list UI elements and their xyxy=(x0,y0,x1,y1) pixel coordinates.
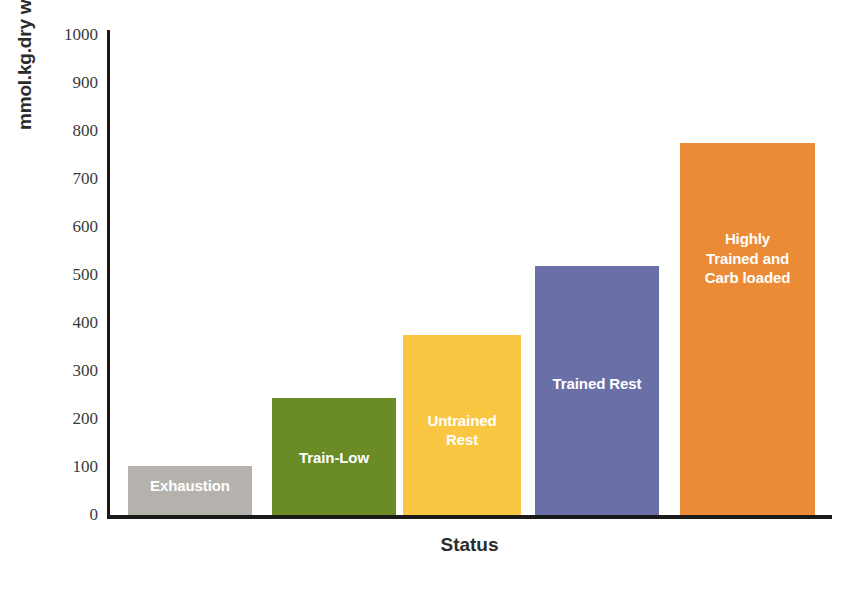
bar-label: Train-Low xyxy=(272,448,396,467)
bar-train-low[interactable]: Train-Low xyxy=(272,398,396,515)
x-axis-title: Status xyxy=(107,534,832,556)
bar-label: Trained Rest xyxy=(535,374,659,393)
bar-label: Untrained Rest xyxy=(403,411,521,449)
bar-highly-trained-and-carb-loaded[interactable]: Highly Trained and Carb loaded xyxy=(680,143,815,515)
bar-chart: mmol.kg.dry weight 100090080070060050040… xyxy=(0,0,847,593)
bar-exhaustion[interactable]: Exhaustion xyxy=(128,466,252,515)
bar-label: Exhaustion xyxy=(128,476,252,495)
bar-series: ExhaustionTrain-LowUntrained RestTrained… xyxy=(0,0,847,593)
bar-trained-rest[interactable]: Trained Rest xyxy=(535,266,659,515)
bar-label: Highly Trained and Carb loaded xyxy=(680,229,815,287)
bar-untrained-rest[interactable]: Untrained Rest xyxy=(403,335,521,515)
